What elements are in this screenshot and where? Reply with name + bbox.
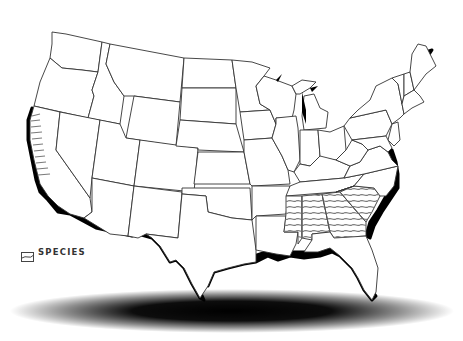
state-arkansas — [252, 186, 290, 220]
state-colorado — [134, 140, 198, 192]
drop-shadow — [10, 289, 454, 333]
hatch-icon — [21, 247, 34, 257]
state-iowa — [240, 110, 276, 140]
state-kansas — [194, 152, 250, 184]
state-pennsylvania — [344, 110, 392, 140]
legend-label: SPECIES — [38, 247, 86, 257]
state-south-dakota — [180, 88, 236, 124]
states — [30, 32, 436, 300]
state-wyoming — [126, 96, 180, 146]
state-nebraska — [176, 120, 244, 152]
state-florida — [304, 232, 378, 300]
us-map-svg — [0, 0, 463, 341]
us-map — [0, 0, 463, 341]
legend: SPECIES — [21, 247, 86, 257]
state-new-mexico — [128, 186, 182, 238]
state-north-dakota — [182, 58, 236, 88]
